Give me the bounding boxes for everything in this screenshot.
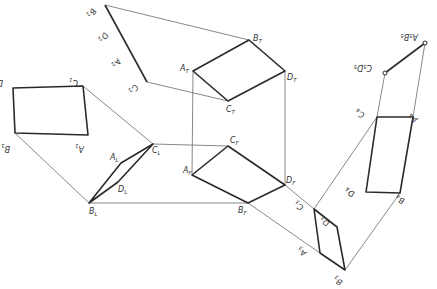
view-1-rectangle <box>13 86 88 135</box>
view-3-parallelogram <box>314 209 345 270</box>
vertex-label-bf: BF <box>238 206 248 216</box>
vertex-label-d2: D2 <box>96 31 110 45</box>
vertex-label-a2: A2 <box>110 56 124 70</box>
vertex-label-b4: B4 <box>394 193 406 206</box>
vertex-label-al: AL <box>109 153 119 163</box>
vertex-label-dt: DT <box>287 73 297 83</box>
orthographic-projection-diagram: D1C1A1B1B2D2A2C2ATBTDTCTAFCFDFBFALCLDLBL… <box>0 0 437 289</box>
vertex-label-d4: D4 <box>343 186 356 199</box>
vertex-label-bt: BT <box>253 34 263 44</box>
vertex-label-cl: CL <box>152 146 161 156</box>
vertex-label-c2: C2 <box>127 83 140 96</box>
vertex-label-at: AT <box>179 64 189 74</box>
point-a5b5-icon <box>423 41 427 45</box>
vertex-label-b1: B1 <box>1 143 10 153</box>
vertex-label-d3: D3 <box>318 214 332 228</box>
projector-lines <box>15 5 425 270</box>
vertex-label-a4: A4 <box>407 112 420 125</box>
vertex-label-c1: C1 <box>69 77 78 87</box>
top-view-parallelogram <box>193 40 285 101</box>
front-view-parallelogram <box>192 146 285 203</box>
view-2-edge <box>105 5 147 82</box>
vertex-label-a3: A3 <box>295 245 309 259</box>
vertex-label-cf: CF <box>230 136 240 146</box>
vertex-label-d1: D1 <box>0 77 3 87</box>
left-view-parallelogram <box>89 144 153 203</box>
vertex-label-c5d5: C₅D₅ <box>354 63 372 72</box>
view-4-rectangle <box>366 117 413 193</box>
vertex-label-a5b5: A₅B₅ <box>401 32 419 41</box>
vertex-label-bl: BL <box>89 207 98 217</box>
vertex-label-dl: DL <box>118 185 127 195</box>
vertex-label-df: DF <box>286 176 296 186</box>
vertex-label-ct: CT <box>226 105 236 115</box>
vertex-label-b2: B2 <box>85 7 98 20</box>
vertex-label-b3: B3 <box>331 274 344 287</box>
point-c5d5-icon <box>383 71 387 75</box>
vertex-label-c4: C4 <box>354 107 366 120</box>
vertex-label-af: AF <box>182 166 192 176</box>
vertex-label-a1: A1 <box>75 143 85 153</box>
